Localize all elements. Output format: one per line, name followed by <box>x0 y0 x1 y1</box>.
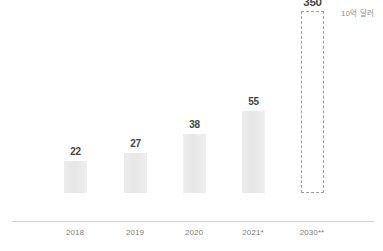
bar-value-2030: 350 <box>303 0 322 8</box>
bar-value-2018: 22 <box>70 146 81 157</box>
bar-2019[interactable] <box>124 153 147 193</box>
category-label-2030: 2030** <box>282 228 342 237</box>
bar-2030-projected[interactable] <box>301 11 324 193</box>
plot-area: 22 27 38 55 350 <box>0 0 383 222</box>
bar-chart: 10억 달러 22 27 38 55 350 2018 2019 <box>0 0 383 251</box>
bar-2020[interactable] <box>183 134 206 193</box>
bar-value-2020: 38 <box>189 119 200 130</box>
category-label-2020: 2020 <box>164 228 224 237</box>
bar-value-2021: 55 <box>248 96 259 107</box>
bar-2021[interactable] <box>242 111 265 193</box>
axis-baseline <box>12 221 374 222</box>
category-label-2018: 2018 <box>45 228 105 237</box>
category-label-2021: 2021* <box>223 228 283 237</box>
category-label-2019: 2019 <box>105 228 165 237</box>
bar-value-2019: 27 <box>130 138 141 149</box>
bar-2018[interactable] <box>64 161 87 193</box>
